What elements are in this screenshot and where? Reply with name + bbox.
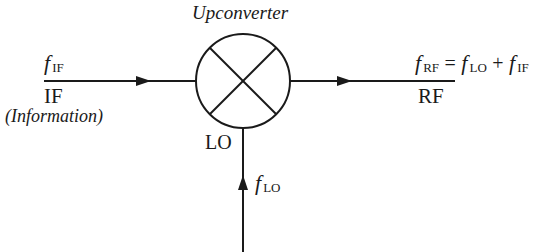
if-input-line [44, 76, 196, 86]
mixer-symbol [196, 34, 290, 128]
if-arrow-icon [136, 76, 151, 86]
lo-symbol: f [255, 170, 261, 195]
rf-equation: fRF = fLO + fIF [415, 50, 529, 76]
lo-input-line [238, 128, 248, 252]
rf-port-label: RF [418, 84, 444, 109]
if-symbol: f [44, 50, 50, 75]
rf-arrow-icon [337, 76, 352, 86]
plus-sign: + [492, 52, 503, 74]
if-subscript: IF [52, 60, 64, 75]
diagram-title: Upconverter [192, 2, 288, 24]
rf-subscript: RF [423, 60, 439, 75]
lo-arrow-icon [238, 175, 248, 190]
rf-symbol: f [415, 50, 421, 75]
lo-port-label: LO [205, 131, 232, 154]
lo-subscript: LO [263, 180, 280, 195]
if-frequency-label: fIF [44, 50, 64, 76]
lo-term-symbol: f [461, 50, 467, 75]
if-term-subscript: IF [517, 60, 529, 75]
equals-sign: = [445, 52, 456, 74]
if-term-symbol: f [509, 50, 515, 75]
lo-frequency-label: fLO [255, 170, 280, 196]
if-description: (Information) [5, 106, 103, 127]
lo-term-subscript: LO [469, 60, 486, 75]
